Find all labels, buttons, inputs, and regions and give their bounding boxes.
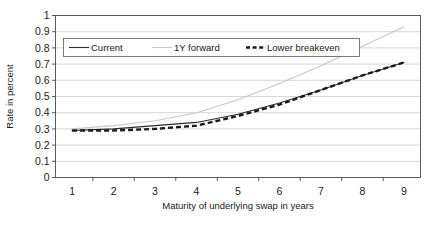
y-axis-tick-label: 0.3	[35, 123, 50, 135]
chart-container: 00.10.20.30.40.50.60.70.80.91 123456789 …	[0, 0, 444, 231]
x-axis-tick-label: 2	[111, 185, 117, 197]
x-axis-tick-label: 8	[360, 185, 366, 197]
x-axis-tick-label: 1	[69, 185, 75, 197]
legend-label: Current	[91, 42, 123, 53]
y-axis-title: Rate in percent	[4, 64, 15, 129]
legend: Current1Y forwardLower breakeven	[64, 39, 360, 57]
x-axis-title: Maturity of underlying swap in years	[162, 200, 314, 211]
y-axis-ticks	[52, 16, 56, 178]
line-chart: 00.10.20.30.40.50.60.70.80.91 123456789 …	[0, 0, 444, 231]
x-axis-tick-label: 3	[152, 185, 158, 197]
y-axis-tick-label: 1	[44, 9, 50, 21]
y-axis-tick-label: 0.9	[35, 25, 50, 37]
y-axis-tick-label: 0.8	[35, 42, 50, 54]
legend-label: 1Y forward	[174, 42, 220, 53]
y-axis-tick-label: 0	[44, 171, 50, 183]
y-axis-tick-label: 0.7	[35, 58, 50, 70]
x-axis-tick-label: 9	[401, 185, 407, 197]
y-axis-tick-label: 0.1	[35, 155, 50, 167]
y-axis-tick-label: 0.4	[35, 106, 50, 118]
x-axis-tick-label: 5	[235, 185, 241, 197]
legend-label: Lower breakeven	[267, 42, 340, 53]
y-axis-tick-label: 0.6	[35, 74, 50, 86]
x-axis-tick-labels: 123456789	[69, 185, 407, 197]
y-axis-tick-labels: 00.10.20.30.40.50.60.70.80.91	[35, 9, 50, 183]
y-axis-tick-label: 0.5	[35, 90, 50, 102]
x-axis-tick-label: 6	[277, 185, 283, 197]
x-axis-ticks	[93, 178, 383, 182]
x-axis-tick-label: 7	[318, 185, 324, 197]
y-axis-tick-label: 0.2	[35, 139, 50, 151]
x-axis-tick-label: 4	[194, 185, 200, 197]
